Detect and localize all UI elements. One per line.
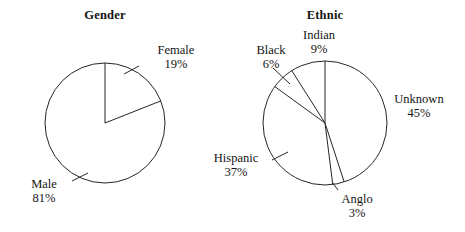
ethnic-pie <box>263 61 387 185</box>
pie-chart-figure: Gender Ethnic Female 19% Male 81% Indian… <box>0 0 465 232</box>
gender-pie <box>45 63 165 183</box>
ethnic-slice-label-unknown: Unknown 45% <box>378 92 460 120</box>
gender-slice-label-female: Female 19% <box>141 43 211 71</box>
gender-slice-label-male: Male 81% <box>11 177 77 205</box>
slice-label-percent: 19% <box>141 57 211 71</box>
slice-label-percent: 81% <box>11 191 77 205</box>
slice-label-name: Male <box>11 177 77 191</box>
slice-label-name: Indian <box>286 28 352 42</box>
slice-label-name: Female <box>141 43 211 57</box>
slice-label-percent: 3% <box>324 206 390 220</box>
slice-label-percent: 45% <box>378 106 460 120</box>
slice-label-percent: 37% <box>196 165 276 179</box>
slice-label-name: Hispanic <box>196 151 276 165</box>
slice-label-name: Black <box>240 43 302 57</box>
ethnic-slice-label-hispanic: Hispanic 37% <box>196 151 276 179</box>
slice-label-percent: 6% <box>240 57 302 71</box>
slice-label-name: Unknown <box>378 92 460 106</box>
ethnic-slice-label-black: Black 6% <box>240 43 302 71</box>
ethnic-slice-label-anglo: Anglo 3% <box>324 192 390 220</box>
slice-label-name: Anglo <box>324 192 390 206</box>
